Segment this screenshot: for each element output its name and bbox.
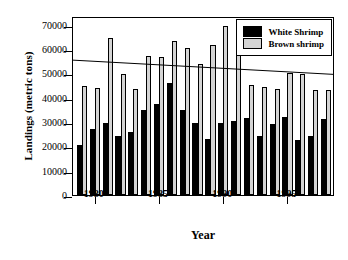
bar-brown-shrimp-1988 [198,64,203,196]
bar-brown-shrimp-1998 [326,90,331,195]
y-tick-label: 30000 [7,118,67,128]
bar-brown-shrimp-1983 [133,89,138,195]
white-shrimp-swatch [243,26,262,37]
bar-brown-shrimp-1996 [300,74,305,195]
y-tick-label: 20000 [7,142,67,152]
bar-brown-shrimp-1989 [210,45,215,195]
bar-brown-shrimp-1986 [172,41,177,195]
bar-brown-shrimp-1990 [223,26,228,195]
legend-item: White Shrimp [243,26,324,37]
bar-brown-shrimp-1994 [275,89,280,195]
bar-brown-shrimp-1982 [121,74,126,195]
bar-brown-shrimp-1985 [159,57,164,195]
bar-brown-shrimp-1984 [146,56,151,195]
y-tick-label: 60000 [7,45,67,55]
x-tick-label: 1995 [256,188,316,199]
bar-brown-shrimp-1980 [95,88,100,195]
y-tick-label: 50000 [7,69,67,79]
bar-brown-shrimp-1992 [249,85,254,195]
legend-item: Brown shrimp [243,38,324,49]
x-tick-label: 1985 [128,188,188,199]
bar-brown-shrimp-1979 [82,86,87,195]
bar-brown-shrimp-1997 [313,90,318,195]
y-tick-label: 70000 [7,21,67,31]
x-tick-label: 1990 [192,188,252,199]
chart-legend: White Shrimp Brown shrimp [236,19,332,56]
x-axis-title: Year [72,228,334,243]
bar-brown-shrimp-1981 [108,38,113,195]
x-tick-label: 1980 [64,188,124,199]
y-tick-label: 40000 [7,94,67,104]
bar-brown-shrimp-1991 [236,55,241,195]
legend-label: Brown shrimp [268,39,324,49]
brown-shrimp-swatch [243,38,262,49]
y-tick-label: 0 [7,191,67,201]
bar-brown-shrimp-1987 [185,48,190,195]
plot-area: White Shrimp Brown shrimp [72,17,334,196]
bar-brown-shrimp-1993 [262,87,267,195]
legend-label: White Shrimp [268,27,323,37]
landings-bar-chart: Landings (metric tons) White Shrimp Brow… [0,0,348,260]
bar-brown-shrimp-1995 [287,73,292,195]
y-tick-label: 10000 [7,167,67,177]
